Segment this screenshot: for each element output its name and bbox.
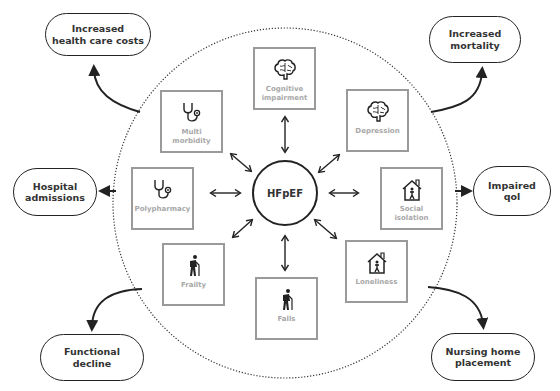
outcome-label: Hospital admissions xyxy=(25,181,85,204)
factor-polypharmacy: Polypharmacy xyxy=(131,167,194,230)
factor-social-isolation: Social isolation xyxy=(380,167,443,230)
house-person-icon xyxy=(364,251,390,275)
elderly-person-cane-icon xyxy=(181,254,207,278)
outcome-increased-mortality: Increased mortality xyxy=(429,16,521,63)
elderly-person-cane-icon xyxy=(274,288,300,312)
outcome-nursing-home-placement: Nursing home placement xyxy=(431,333,535,381)
arrow-to-nursing-home xyxy=(428,287,483,324)
factor-label: Multi morbidity xyxy=(162,128,221,145)
hfpef-center-node: HFpEF xyxy=(252,160,318,226)
factor-falls: Falls xyxy=(255,277,318,340)
stethoscope-icon xyxy=(150,178,176,202)
arrow-center-multimorbidity xyxy=(231,154,251,171)
factor-label: Social isolation xyxy=(382,205,441,222)
factor-cognitive-impairment: Cognitive impairment xyxy=(253,47,316,110)
factor-label: Loneliness xyxy=(356,278,398,287)
outcome-increased-health-care-costs: Increased health care costs xyxy=(45,13,151,56)
arrow-center-loneliness xyxy=(315,220,336,238)
house-person-icon xyxy=(399,178,425,202)
arrow-to-mortality xyxy=(431,72,482,112)
outcome-functional-decline: Functional decline xyxy=(40,334,144,381)
brain-icon xyxy=(365,100,391,124)
factor-label: Depression xyxy=(355,127,399,136)
arrow-to-health-care-costs xyxy=(94,70,140,112)
factor-label: Frailty xyxy=(181,281,206,290)
arrow-to-functional-decline xyxy=(92,289,142,326)
factor-label: Falls xyxy=(277,315,295,324)
outcome-label: Increased health care costs xyxy=(52,23,144,46)
factor-loneliness: Loneliness xyxy=(345,240,408,303)
outcome-label: Nursing home placement xyxy=(446,346,521,369)
hfpef-label: HFpEF xyxy=(267,188,303,199)
stethoscope-icon xyxy=(179,101,205,125)
outcome-impaired-qol: Impaired qol xyxy=(473,166,551,216)
factor-multi-morbidity: Multi morbidity xyxy=(160,90,223,153)
factor-frailty: Frailty xyxy=(162,243,225,306)
factor-depression: Depression xyxy=(346,89,409,152)
outcome-label: Functional decline xyxy=(64,346,120,369)
brain-icon xyxy=(272,58,298,82)
factor-label: Polypharmacy xyxy=(135,205,191,214)
outcome-label: Increased mortality xyxy=(449,28,501,51)
arrow-center-depression xyxy=(319,155,339,172)
outcome-hospital-admissions: Hospital admissions xyxy=(13,168,97,216)
outcome-label: Impaired qol xyxy=(488,180,536,203)
factor-label: Cognitive impairment xyxy=(262,85,308,102)
arrow-center-frailty xyxy=(233,220,252,237)
